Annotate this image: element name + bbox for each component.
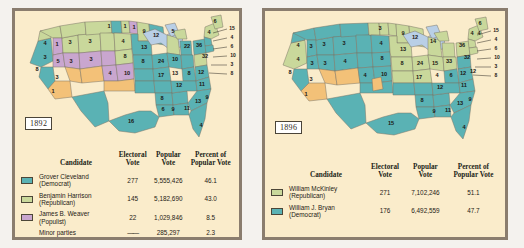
svg-text:9: 9: [171, 106, 174, 112]
svg-text:3: 3: [323, 60, 326, 66]
legend-swatch-cell: [19, 190, 37, 209]
color-swatch: [21, 196, 33, 203]
candidate-name-line1: William J. Bryan: [289, 204, 335, 211]
minor-parties-label: Minor parties: [37, 227, 115, 238]
svg-text:6: 6: [449, 72, 452, 78]
candidate-party: (Democrat): [289, 211, 321, 218]
svg-text:14: 14: [430, 38, 437, 44]
candidate-name-line1: William McKinley: [289, 185, 337, 192]
svg-text:8: 8: [380, 55, 383, 61]
svg-text:4: 4: [435, 72, 439, 78]
svg-text:3: 3: [309, 76, 312, 82]
color-swatch: [21, 214, 33, 221]
col-popular-vote: Popular Vote: [150, 151, 186, 171]
svg-text:5: 5: [56, 58, 59, 64]
svg-text:8: 8: [187, 70, 190, 76]
svg-text:17: 17: [416, 74, 422, 80]
candidate-name: William McKinley (Republican): [287, 183, 365, 202]
svg-text:8: 8: [123, 53, 126, 59]
col-percent-line1: Percent of: [195, 151, 226, 159]
electoral-vote-value: 277: [115, 171, 150, 190]
svg-text:3: 3: [68, 39, 71, 45]
svg-text:3: 3: [495, 63, 498, 69]
svg-text:8: 8: [420, 97, 423, 103]
percent-value: 51.1: [446, 183, 501, 202]
popular-vote-value: 7,102,246: [405, 183, 446, 202]
svg-text:32: 32: [202, 53, 208, 59]
candidate-name-line1: Benjamin Harrison: [39, 192, 92, 199]
percent-value: 43.0: [186, 190, 235, 209]
svg-text:1: 1: [304, 91, 307, 97]
svg-text:6: 6: [231, 43, 234, 49]
svg-text:4: 4: [495, 36, 498, 42]
svg-text:13: 13: [141, 44, 147, 50]
table-row: Grover Cleveland (Democrat) 277 5,555,42…: [19, 171, 235, 190]
svg-text:8: 8: [231, 70, 234, 76]
legend-swatch-cell: [19, 227, 37, 238]
svg-text:15: 15: [493, 27, 499, 33]
results-table-1892: Candidate Electoral Vote Popular Vote Pe…: [19, 151, 235, 239]
color-swatch: [271, 189, 283, 196]
popular-vote-value: 5,555,426: [150, 171, 186, 190]
col-popular-line2: Vote: [161, 159, 175, 167]
col-percent: Percent of Popular Vote: [446, 163, 501, 183]
svg-text:9: 9: [432, 108, 435, 114]
map-panel-1892: 4 3 1 5 8 3 1 3 3 3 3 1 1 1 4: [12, 8, 242, 240]
col-percent-line2: Popular Vote: [453, 171, 493, 179]
svg-text:3: 3: [310, 60, 313, 66]
svg-text:9: 9: [142, 28, 145, 34]
svg-text:1: 1: [107, 23, 110, 29]
table-row: Benjamin Harrison (Republican) 145 5,182…: [19, 190, 235, 209]
svg-text:10: 10: [381, 71, 387, 77]
svg-text:8: 8: [495, 72, 498, 78]
percent-value: 47.7: [446, 202, 501, 221]
table-row: Minor parties —— 285,297 2.3: [19, 227, 235, 238]
svg-text:10: 10: [172, 56, 178, 62]
svg-text:9: 9: [401, 30, 404, 36]
svg-text:6: 6: [495, 45, 498, 51]
year-label-1892: 1892: [25, 117, 52, 130]
electoral-vote-value: ——: [115, 227, 150, 238]
svg-text:15: 15: [432, 60, 438, 66]
svg-text:8: 8: [35, 66, 38, 72]
svg-text:9: 9: [468, 96, 471, 102]
legend-swatch-cell: [269, 183, 287, 202]
col-electoral-line1: Electoral: [371, 163, 399, 171]
results-table-1896: Candidate Electoral Vote Popular Vote Pe…: [269, 163, 501, 220]
svg-text:9: 9: [205, 94, 208, 100]
svg-text:12: 12: [470, 68, 476, 74]
svg-text:16: 16: [128, 118, 134, 124]
color-swatch: [21, 177, 33, 184]
svg-text:3: 3: [55, 74, 58, 80]
svg-text:17: 17: [158, 72, 164, 78]
col-popular-vote: Popular Vote: [405, 163, 446, 183]
popular-vote-value: 6,492,559: [405, 202, 446, 221]
us-map-1896: 4 4 3 3 8 3 1 3 3 3 4 3 4 8 4: [265, 11, 505, 157]
svg-text:3: 3: [231, 61, 234, 67]
svg-text:13: 13: [457, 100, 463, 106]
svg-text:6: 6: [213, 18, 216, 24]
percent-value: 2.3: [186, 227, 235, 238]
svg-text:10: 10: [124, 70, 130, 76]
col-electoral-vote: Electoral Vote: [115, 151, 150, 171]
candidate-name: William J. Bryan (Democrat): [287, 202, 365, 221]
svg-text:24: 24: [417, 60, 424, 66]
svg-text:3: 3: [89, 56, 92, 62]
svg-text:3: 3: [322, 41, 325, 47]
svg-text:13: 13: [400, 46, 406, 52]
table-header-row: Candidate Electoral Vote Popular Vote Pe…: [269, 163, 501, 183]
candidate-party: (Populist): [39, 218, 66, 225]
svg-text:13: 13: [172, 70, 178, 76]
popular-vote-value: 1,029,846: [150, 208, 186, 227]
legend-swatch-cell: [269, 202, 287, 221]
svg-text:6: 6: [478, 20, 481, 26]
col-electoral-line1: Electoral: [119, 151, 147, 159]
svg-text:1: 1: [55, 41, 58, 47]
legend-table-1892: Candidate Electoral Vote Popular Vote Pe…: [19, 151, 235, 239]
svg-text:6: 6: [161, 106, 164, 112]
svg-text:12: 12: [198, 69, 204, 75]
svg-text:13: 13: [195, 98, 201, 104]
svg-text:36: 36: [459, 42, 465, 48]
svg-text:11: 11: [461, 82, 467, 88]
col-electoral-vote: Electoral Vote: [365, 163, 405, 183]
